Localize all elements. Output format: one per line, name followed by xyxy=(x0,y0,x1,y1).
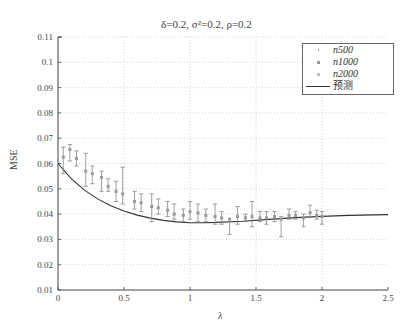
data-point xyxy=(133,200,136,203)
legend-item-prediction: 预测 xyxy=(303,80,393,92)
data-point xyxy=(288,214,291,217)
data-point xyxy=(140,201,143,204)
data-point xyxy=(182,214,185,217)
x-tick-label: 1 xyxy=(188,293,193,303)
y-tick-label: 0.08 xyxy=(37,108,53,118)
data-point xyxy=(251,215,254,218)
data-point xyxy=(115,190,118,193)
data-point xyxy=(309,211,312,214)
data-point xyxy=(315,214,318,217)
data-point xyxy=(302,216,305,219)
y-tick-label: 0.04 xyxy=(37,209,53,219)
data-point xyxy=(121,192,124,195)
x-tick-label: 1.5 xyxy=(250,293,262,303)
data-point xyxy=(258,216,261,219)
y-tick-label: 0.09 xyxy=(37,83,53,93)
data-point xyxy=(204,214,207,217)
y-tick-label: 0.06 xyxy=(37,159,53,169)
legend-item-n500: n500 xyxy=(303,44,393,56)
data-point xyxy=(236,215,239,218)
chart-legend: n500 n1000 n2000 预测 xyxy=(302,43,394,95)
data-point xyxy=(150,205,153,208)
data-point xyxy=(321,215,324,218)
data-point xyxy=(244,216,247,219)
data-point xyxy=(75,157,78,160)
y-tick-label: 0.1 xyxy=(42,57,53,67)
data-point xyxy=(265,216,268,219)
star-marker-icon xyxy=(303,61,333,64)
data-point xyxy=(196,211,199,214)
data-point xyxy=(68,148,71,151)
data-point xyxy=(62,156,65,159)
x-tick-label: 0.5 xyxy=(118,293,130,303)
legend-item-n2000: n2000 xyxy=(303,68,393,80)
x-tick-label: 2.5 xyxy=(382,293,394,303)
line-marker-icon xyxy=(303,86,333,87)
data-point xyxy=(91,172,94,175)
data-point xyxy=(189,210,192,213)
x-tick-label: 0 xyxy=(56,293,61,303)
y-tick-label: 0.11 xyxy=(38,32,53,42)
data-point xyxy=(107,185,110,188)
dot-marker-icon xyxy=(303,49,333,51)
x-marker-icon xyxy=(303,73,333,76)
y-tick-label: 0.01 xyxy=(37,285,53,295)
legend-item-n1000: n1000 xyxy=(303,56,393,68)
y-tick-label: 0.07 xyxy=(37,133,53,143)
data-point xyxy=(173,213,176,216)
y-tick-label: 0.05 xyxy=(37,184,53,194)
data-point xyxy=(280,218,283,221)
data-point xyxy=(100,176,103,179)
data-point xyxy=(84,170,87,173)
data-point xyxy=(220,216,223,219)
data-point xyxy=(273,215,276,218)
data-point xyxy=(157,206,160,209)
y-tick-label: 0.02 xyxy=(37,260,53,270)
data-point xyxy=(166,209,169,212)
data-point xyxy=(214,215,217,218)
x-tick-label: 2 xyxy=(320,293,325,303)
y-tick-label: 0.03 xyxy=(37,234,53,244)
data-point xyxy=(228,218,231,221)
data-point xyxy=(294,214,297,217)
